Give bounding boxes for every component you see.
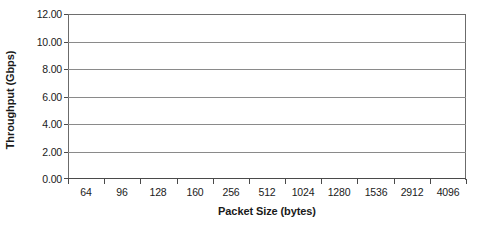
x-axis-title: Packet Size (bytes) — [68, 205, 466, 217]
x-tick-mark — [321, 179, 322, 184]
gridline-4.00 — [68, 124, 466, 125]
y-axis-tick-labels: 0.002.004.006.008.0010.0012.00 — [22, 0, 62, 228]
gridline-10.00 — [68, 42, 466, 43]
y-tick-label: 6.00 — [22, 92, 62, 102]
x-tick-mark — [68, 179, 69, 184]
y-tick-label: 8.00 — [22, 64, 62, 74]
x-axis-tick-marks — [68, 179, 466, 185]
x-tick-label: 1280 — [328, 186, 351, 198]
gridline-6.00 — [68, 97, 466, 98]
y-tick-mark — [64, 97, 68, 98]
x-tick-mark — [177, 179, 178, 184]
y-tick-label: 2.00 — [22, 147, 62, 157]
y-tick-mark — [64, 69, 68, 70]
y-tick-mark — [64, 42, 68, 43]
x-tick-label: 256 — [223, 186, 240, 198]
x-tick-label: 64 — [80, 186, 91, 198]
x-tick-mark — [466, 179, 467, 184]
y-tick-mark — [64, 124, 68, 125]
chart-figure: Throughput (Gbps) 0.002.004.006.008.0010… — [0, 0, 485, 228]
gridline-2.00 — [68, 152, 466, 153]
x-tick-mark — [430, 179, 431, 184]
x-tick-mark — [104, 179, 105, 184]
x-tick-label: 160 — [187, 186, 204, 198]
gridline-12.00 — [68, 14, 466, 15]
x-tick-label: 1536 — [365, 186, 388, 198]
x-tick-mark — [394, 179, 395, 184]
x-tick-mark — [357, 179, 358, 184]
y-tick-mark — [64, 14, 68, 15]
x-tick-label: 1024 — [292, 186, 315, 198]
x-tick-mark — [140, 179, 141, 184]
x-tick-mark — [249, 179, 250, 184]
x-tick-label: 96 — [116, 186, 127, 198]
x-tick-label: 512 — [259, 186, 276, 198]
y-tick-label: 0.00 — [22, 174, 62, 184]
plot-area — [68, 14, 466, 179]
x-tick-label: 2912 — [401, 186, 424, 198]
y-tick-label: 4.00 — [22, 119, 62, 129]
y-tick-label: 10.00 — [22, 37, 62, 47]
x-tick-label: 4096 — [437, 186, 460, 198]
y-tick-mark — [64, 152, 68, 153]
y-axis-title: Throughput (Gbps) — [1, 17, 19, 183]
x-tick-label: 128 — [150, 186, 167, 198]
gridline-8.00 — [68, 69, 466, 70]
y-tick-label: 12.00 — [22, 9, 62, 19]
x-tick-mark — [213, 179, 214, 184]
x-axis-tick-labels: 649612816025651210241280153629124096 — [68, 186, 466, 200]
x-tick-mark — [285, 179, 286, 184]
